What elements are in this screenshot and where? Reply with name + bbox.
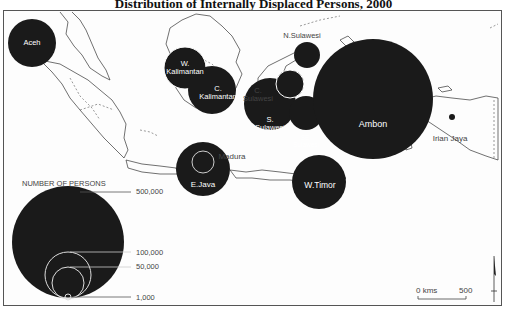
label-n-sulawesi: N.Sulawesi	[283, 32, 321, 40]
bubble-c-sulawesi	[276, 70, 304, 98]
bubble-ambon	[313, 39, 433, 159]
label-madura: Madura	[218, 153, 245, 161]
label-se-sulawesi-2: Sulawesi	[293, 141, 319, 149]
legend-title: NUMBER OF PERSONS	[22, 179, 106, 188]
label-aceh: Aceh	[23, 39, 40, 47]
label-ambon: Ambon	[359, 120, 388, 128]
scale-zero-label: 0 kms	[416, 286, 437, 295]
legend-100000: 100,000	[136, 248, 163, 257]
label-irian-jaya: Irian Jaya	[433, 135, 468, 143]
north-arrow-icon	[491, 256, 497, 302]
bubble-irian-jaya	[449, 114, 455, 120]
map-canvas	[0, 0, 507, 311]
label-c-sulawesi-2: Sulawesi	[243, 95, 273, 103]
scale-bar	[418, 296, 466, 299]
bubble-n-sulawesi	[294, 42, 320, 68]
legend-1000: 1,000	[136, 293, 155, 302]
legend-50000: 50,000	[136, 262, 159, 271]
legend-500000: 500,000	[136, 187, 163, 196]
label-w-kalimantan-2: Kalimantan	[166, 68, 204, 76]
label-e-java: E.Java	[191, 181, 215, 189]
label-w-timor: W.Timor	[304, 181, 335, 189]
legend-circles	[12, 186, 131, 300]
scale-max-label: 500	[459, 286, 472, 295]
label-s-sulawesi-2: Sulawesi	[255, 124, 285, 132]
label-c-kalimantan-2: Kalimantan	[199, 93, 237, 101]
